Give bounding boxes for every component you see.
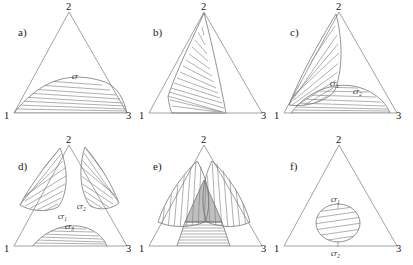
panel-b: b) 1 2 3 <box>139 1 266 121</box>
panel-a-cr-label: cr <box>72 72 78 81</box>
panel-a-vertex-1: 1 <box>4 110 9 121</box>
panel-d-region2-tielines <box>80 149 119 211</box>
panel-d-cr3-label: cr3 <box>65 222 74 232</box>
panel-b-vertex-2: 2 <box>201 1 206 12</box>
panel-c-vertex-1: 1 <box>274 110 279 121</box>
panel-c-vertex-3: 3 <box>396 110 401 121</box>
panel-f-vertex-3: 3 <box>396 243 401 254</box>
panel-b-letter: b) <box>153 26 163 39</box>
panel-f-cr1-label: cr1 <box>331 195 340 205</box>
panel-d-vertex-2: 2 <box>66 134 71 145</box>
panel-e: e) 1 2 3 <box>139 134 266 254</box>
panel-a-triangle <box>14 12 127 113</box>
panel-e-letter: e) <box>153 160 162 173</box>
panel-f-cr2-label: cr2 <box>331 249 340 259</box>
panel-b-binodal-upper <box>168 13 226 113</box>
panel-f-vertex-2: 2 <box>336 134 341 145</box>
panel-c-vertex-2: 2 <box>336 1 341 12</box>
panel-a-letter: a) <box>18 26 27 39</box>
panel-c-cr2-label: cr2 <box>353 87 362 97</box>
panel-d-vertex-1: 1 <box>4 243 9 254</box>
panel-f-vertex-1: 1 <box>274 243 279 254</box>
panel-d-cr1-label: cr1 <box>58 212 67 222</box>
panel-a: a) 1 2 3 cr <box>4 1 131 121</box>
panel-c: c) 1 2 3 cr1 cr2 <box>274 1 401 121</box>
panel-d: d) 1 2 3 <box>4 134 131 254</box>
figure-six-ternary-diagrams: a) 1 2 3 cr b) 1 2 3 <box>0 0 413 265</box>
panel-d-cr2-label: cr2 <box>77 202 86 212</box>
panel-b-vertex-3: 3 <box>261 110 266 121</box>
panel-f-tielines <box>314 206 362 246</box>
panel-a-tielines <box>14 81 127 113</box>
panel-e-vertex-2: 2 <box>201 134 206 145</box>
panel-e-vertex-1: 1 <box>139 243 144 254</box>
panel-f-triangle <box>284 145 397 246</box>
panel-d-vertex-3: 3 <box>126 243 131 254</box>
panel-f: f) 1 2 3 cr1 cr2 <box>274 134 401 259</box>
panel-e-vertex-3: 3 <box>261 243 266 254</box>
panel-e-region3-tielines <box>176 225 231 246</box>
panel-c-letter: c) <box>290 26 299 39</box>
panel-f-letter: f) <box>290 160 298 173</box>
panel-b-vertex-1: 1 <box>139 110 144 121</box>
figure-canvas: a) 1 2 3 cr b) 1 2 3 <box>0 0 413 265</box>
panel-d-letter: d) <box>18 160 28 173</box>
panel-a-vertex-2: 2 <box>66 1 71 12</box>
panel-c-region2-tielines <box>291 87 390 113</box>
